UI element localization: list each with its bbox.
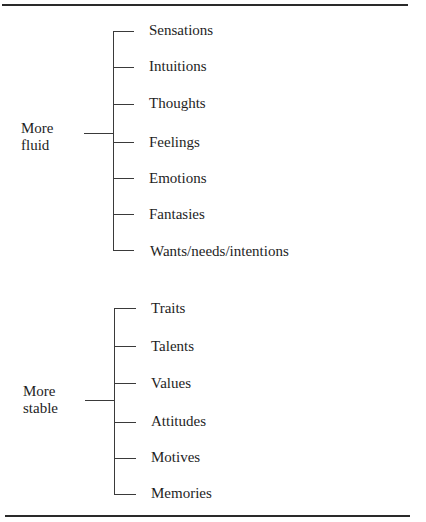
bracket-spine-fluid <box>113 31 114 251</box>
item-talents: Talents <box>151 338 194 354</box>
top-rule <box>2 4 408 6</box>
item-tick <box>113 250 134 251</box>
group-connector-fluid <box>84 133 114 134</box>
item-tick <box>113 214 134 215</box>
item-feelings: Feelings <box>149 134 200 150</box>
group-label-line2: stable <box>23 400 58 417</box>
item-tick <box>114 308 136 309</box>
item-memories: Memories <box>151 485 212 501</box>
item-tick <box>114 494 136 495</box>
group-label-line2: fluid <box>21 137 54 154</box>
item-tick <box>114 458 136 459</box>
item-tick <box>113 178 134 179</box>
item-tick <box>114 346 136 347</box>
item-tick <box>113 31 134 32</box>
item-tick <box>113 67 134 68</box>
group-label-stable: More stable <box>23 383 58 417</box>
item-attitudes: Attitudes <box>151 413 206 429</box>
group-connector-stable <box>85 400 115 401</box>
item-sensations: Sensations <box>149 22 213 38</box>
item-thoughts: Thoughts <box>149 95 206 111</box>
item-tick <box>114 383 136 384</box>
item-fantasies: Fantasies <box>149 206 205 222</box>
item-values: Values <box>151 375 191 391</box>
item-tick <box>114 422 136 423</box>
item-wants-needs-intentions: Wants/needs/intentions <box>150 243 289 259</box>
item-tick <box>113 142 134 143</box>
bracket-spine-stable <box>114 308 115 495</box>
item-traits: Traits <box>151 300 185 316</box>
group-label-line1: More <box>23 383 58 400</box>
item-intuitions: Intuitions <box>149 58 207 74</box>
group-label-line1: More <box>21 120 54 137</box>
item-motives: Motives <box>151 449 200 465</box>
bottom-rule <box>5 515 410 517</box>
item-tick <box>113 104 134 105</box>
group-label-fluid: More fluid <box>21 120 54 154</box>
item-emotions: Emotions <box>149 170 207 186</box>
